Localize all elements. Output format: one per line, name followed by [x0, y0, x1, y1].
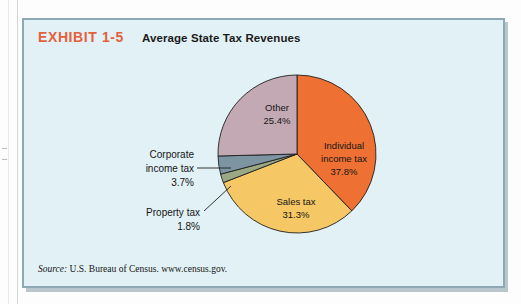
- slice-label-individual-income-tax-line2: income tax: [321, 153, 367, 164]
- callout-label-property-tax-line1: Property tax: [146, 207, 200, 218]
- exhibit-header: EXHIBIT 1-5 Average State Tax Revenues: [38, 29, 301, 45]
- callout-label-property-tax-value: 1.8%: [177, 221, 200, 232]
- exhibit-number: EXHIBIT 1-5: [38, 29, 124, 45]
- source-label: Source:: [38, 264, 67, 274]
- slice-label-individual-income-tax-value: 37.8%: [331, 166, 358, 177]
- callout-label-corporate-income-tax-line2: income tax: [146, 163, 194, 174]
- slice-label-other-line1: Other: [265, 102, 289, 113]
- page-margin-rule-inner: [17, 0, 18, 304]
- page-margin-rule-outer: [8, 0, 9, 304]
- source-note: Source: U.S. Bureau of Census. www.censu…: [38, 264, 227, 274]
- exhibit-title: Average State Tax Revenues: [142, 32, 301, 44]
- callout-label-corporate-income-tax-value: 3.7%: [171, 177, 194, 188]
- leader-line-property-tax: [204, 186, 231, 211]
- margin-mark-upper: [2, 148, 7, 149]
- pie-chart-svg: Individual income tax 37.8% Sales tax 31…: [24, 50, 503, 260]
- source-text: U.S. Bureau of Census. www.census.gov.: [67, 264, 227, 274]
- slice-label-sales-tax-line1: Sales tax: [276, 196, 315, 207]
- slice-label-other-value: 25.4%: [264, 115, 291, 126]
- pie-chart: Individual income tax 37.8% Sales tax 31…: [24, 50, 503, 260]
- callout-label-corporate-income-tax-line1: Corporate: [150, 149, 195, 160]
- exhibit-panel: EXHIBIT 1-5 Average State Tax Revenues I…: [22, 18, 505, 288]
- margin-mark-lower: [2, 159, 7, 160]
- slice-label-sales-tax-value: 31.3%: [283, 209, 310, 220]
- slice-label-individual-income-tax-line1: Individual: [324, 140, 364, 151]
